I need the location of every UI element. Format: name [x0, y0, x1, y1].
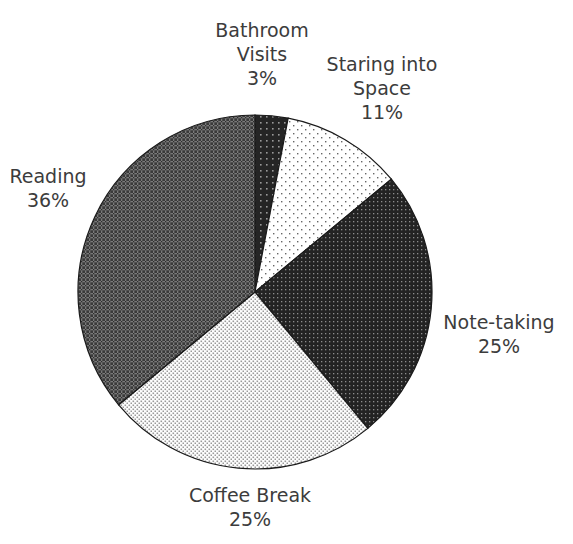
label-line: Note-taking — [443, 310, 554, 334]
label-line: Space — [327, 76, 438, 100]
label-line: Reading — [9, 164, 86, 188]
label-value: 11% — [327, 100, 438, 124]
pie-slices — [78, 115, 432, 469]
label-value: 25% — [189, 507, 311, 531]
label-staring-into-space: Staring into Space 11% — [327, 52, 438, 124]
label-coffee-break: Coffee Break 25% — [189, 483, 311, 531]
label-value: 36% — [9, 188, 86, 212]
label-line: Staring into — [327, 52, 438, 76]
label-value: 3% — [215, 66, 308, 90]
label-reading: Reading 36% — [9, 164, 86, 212]
label-line: Coffee Break — [189, 483, 311, 507]
label-line: Bathroom — [215, 18, 308, 42]
label-value: 25% — [443, 334, 554, 358]
label-note-taking: Note-taking 25% — [443, 310, 554, 358]
label-line: Visits — [215, 42, 308, 66]
label-bathroom-visits: Bathroom Visits 3% — [215, 18, 308, 90]
